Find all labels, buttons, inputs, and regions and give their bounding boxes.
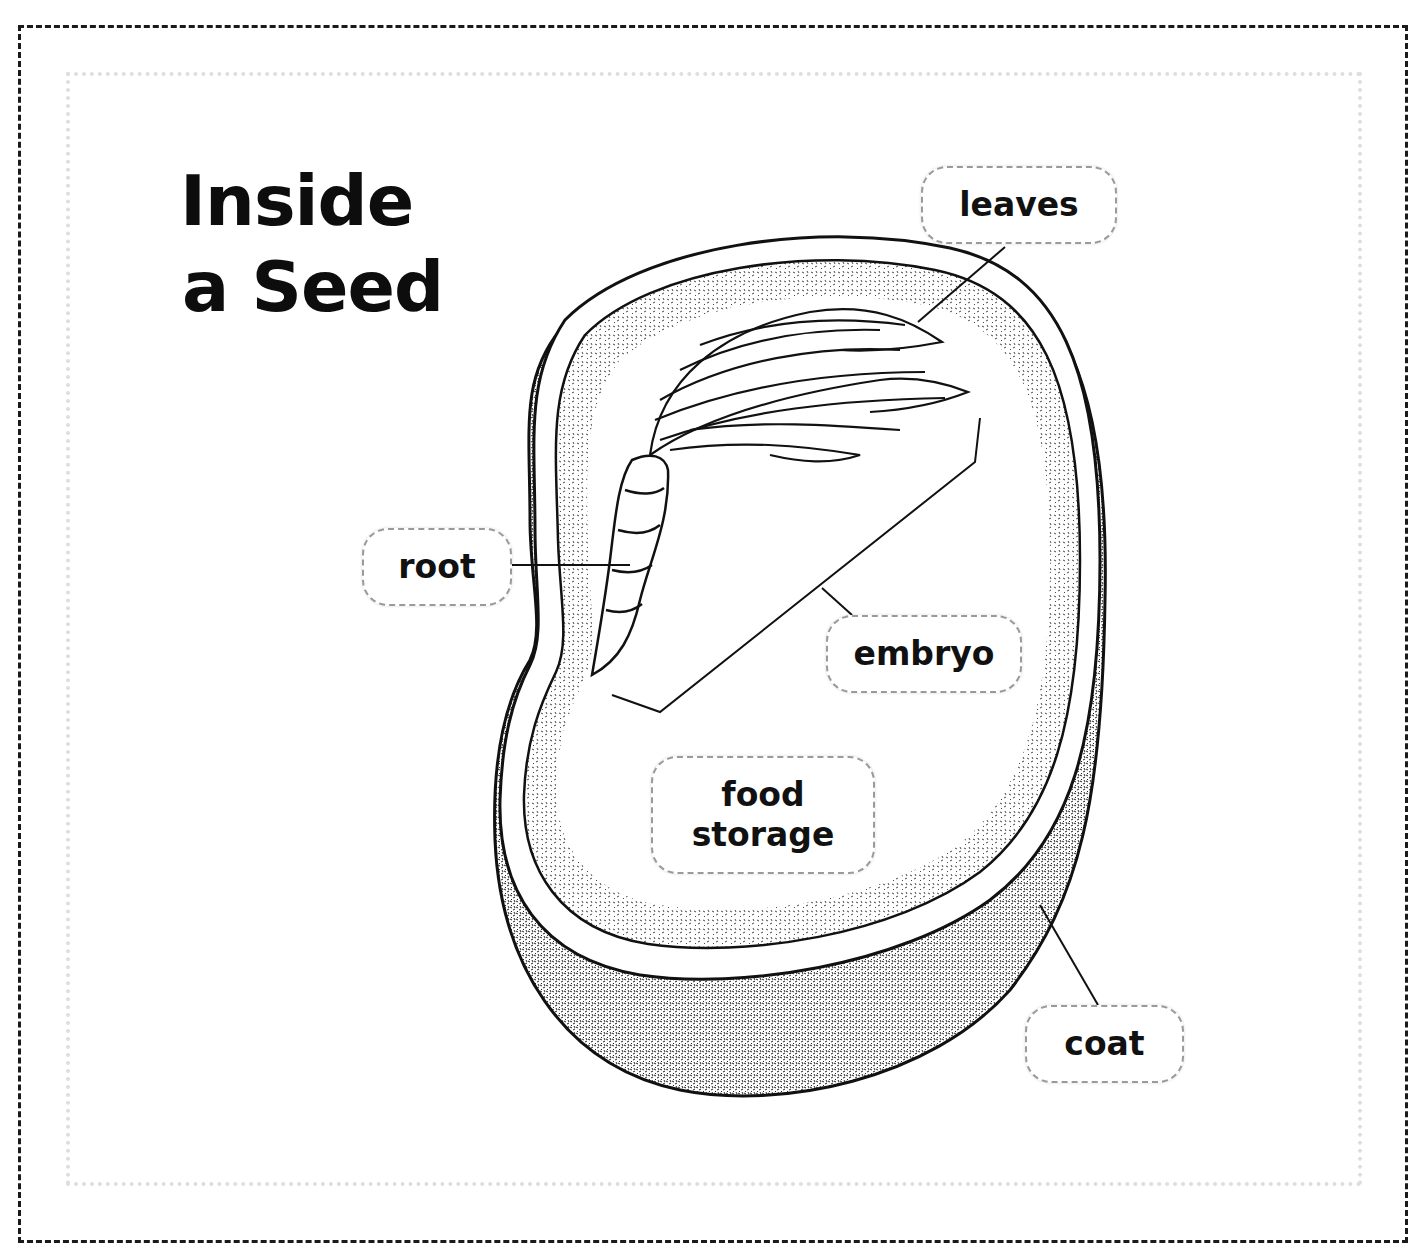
label-food-storage-line-1: food: [721, 775, 804, 815]
label-leaves-text: leaves: [959, 185, 1079, 225]
label-leaves: leaves: [921, 166, 1117, 244]
label-root-text: root: [398, 547, 475, 587]
coat-leader-line: [1040, 905, 1098, 1005]
label-food-storage: food storage: [651, 756, 875, 874]
label-embryo: embryo: [826, 615, 1022, 693]
label-root: root: [362, 528, 512, 606]
label-embryo-text: embryo: [854, 634, 995, 674]
label-food-storage-line-2: storage: [692, 815, 835, 855]
label-coat-text: coat: [1064, 1024, 1144, 1064]
label-coat: coat: [1025, 1005, 1184, 1083]
seed-illustration: [0, 0, 1415, 1260]
